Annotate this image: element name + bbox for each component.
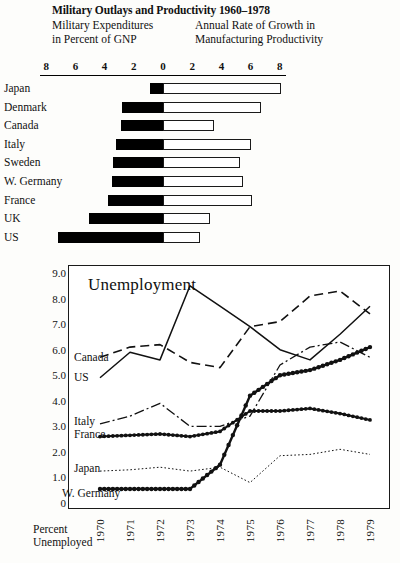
series-marker: [330, 410, 334, 414]
series-marker: [227, 424, 231, 428]
series-marker: [235, 423, 239, 427]
series-marker: [287, 408, 291, 412]
series-marker: [210, 431, 214, 435]
bar-segment-military: [113, 157, 163, 168]
series-marker: [239, 413, 243, 417]
series-marker: [295, 370, 299, 374]
series-marker: [261, 409, 265, 413]
bar-rows: JapanDenmarkCanadaItalySwedenW. GermanyF…: [0, 80, 400, 247]
bar-row-country-label: US: [4, 231, 19, 243]
series-marker: [304, 369, 308, 373]
series-marker: [162, 487, 166, 491]
series-marker: [132, 487, 136, 491]
series-marker: [132, 433, 136, 437]
series-marker: [321, 409, 325, 413]
bar-segment-productivity: [163, 120, 214, 131]
series-label-japan: Japan: [74, 462, 100, 474]
series-marker: [325, 362, 329, 366]
x-caption-line1: Percent: [33, 523, 92, 536]
series-marker: [214, 430, 218, 434]
series-marker: [158, 487, 162, 491]
series-marker: [231, 433, 235, 437]
series-marker: [115, 434, 119, 438]
series-marker: [145, 487, 149, 491]
series-marker: [248, 393, 252, 397]
series-marker: [252, 391, 256, 395]
plot-title: Unemployment: [88, 275, 196, 295]
series-marker: [209, 469, 213, 473]
series-marker: [248, 409, 252, 413]
bar-row-country-label: Japan: [4, 82, 30, 94]
series-marker: [312, 407, 316, 411]
x-axis-tick-4: 1974: [214, 519, 226, 542]
bar-row-country-label: W. Germany: [4, 175, 62, 187]
bar-row: Italy: [0, 136, 400, 155]
series-marker: [162, 432, 166, 436]
bar-segment-productivity: [163, 176, 243, 187]
series-marker: [274, 376, 278, 380]
series-marker: [179, 487, 183, 491]
series-marker: [308, 407, 312, 411]
bar-segment-military: [121, 120, 163, 131]
series-label-canada: Canada: [74, 351, 108, 363]
bar-row-country-label: Sweden: [4, 156, 40, 168]
subtitle-right: Annual Rate of Growth in Manufacturing P…: [195, 18, 323, 46]
bar-row: UK: [0, 210, 400, 229]
series-marker: [360, 416, 364, 420]
y-axis-tick-4: 5.0: [52, 369, 66, 381]
series-marker: [175, 434, 179, 438]
series-marker: [300, 407, 304, 411]
subtitle-left-line1: Military Expenditures: [52, 18, 153, 32]
bar-row-country-label: Canada: [4, 119, 38, 131]
bar-axis-tick-0: 8: [43, 60, 49, 72]
series-label-italy: Italy: [74, 415, 95, 427]
bar-axis-tick-labels: 864202468: [0, 60, 400, 74]
series-marker: [137, 433, 141, 437]
bar-segment-productivity: [163, 157, 240, 168]
bar-segment-military: [122, 102, 163, 113]
series-marker: [141, 433, 145, 437]
series-marker: [154, 487, 158, 491]
y-axis-tick-2: 7.0: [52, 318, 66, 330]
series-marker: [244, 412, 248, 416]
series-marker: [351, 414, 355, 418]
bar-axis-rule: [40, 75, 286, 76]
bar-row-country-label: France: [4, 194, 35, 206]
series-marker: [368, 345, 372, 349]
series-marker: [124, 434, 128, 438]
x-axis-tick-7: 1977: [304, 519, 316, 542]
series-marker: [346, 354, 350, 358]
series-label-w-germany: W. Germany: [62, 487, 120, 499]
bar-segment-military: [150, 83, 163, 94]
series-marker: [192, 483, 196, 487]
x-axis-tick-1: 1971: [124, 519, 136, 542]
series-marker: [136, 487, 140, 491]
bar-axis-tick-1: 6: [73, 60, 79, 72]
series-marker: [196, 480, 200, 484]
series-marker: [154, 432, 158, 436]
series-marker: [231, 421, 235, 425]
y-axis-tick-3: 6.0: [52, 344, 66, 356]
series-marker: [184, 487, 188, 491]
series-marker: [175, 487, 179, 491]
series-marker: [342, 356, 346, 360]
series-line-japan: [100, 449, 370, 482]
series-marker: [269, 379, 273, 383]
series-marker: [205, 432, 209, 436]
series-marker: [197, 433, 201, 437]
subtitle-row: Military Expenditures in Percent of GNP …: [52, 18, 392, 48]
series-marker: [141, 487, 145, 491]
series-marker: [214, 466, 218, 470]
bar-segment-productivity: [163, 102, 261, 113]
series-marker: [342, 413, 346, 417]
series-marker: [222, 453, 226, 457]
series-marker: [291, 408, 295, 412]
bar-segment-military: [89, 213, 163, 224]
series-marker: [265, 382, 269, 386]
series-marker: [145, 433, 149, 437]
x-axis-tick-8: 1978: [334, 519, 346, 542]
series-marker: [128, 487, 132, 491]
series-marker: [166, 487, 170, 491]
chart-header: Military Outlays and Productivity 1960–1…: [52, 4, 392, 48]
bar-segment-military: [108, 195, 163, 206]
